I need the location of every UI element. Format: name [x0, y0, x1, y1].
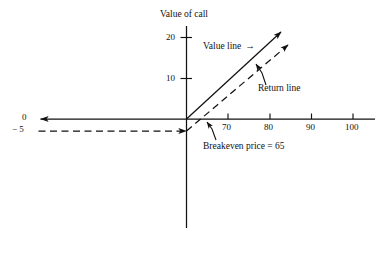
- breakeven-leader: [207, 122, 216, 140]
- x-tick-label-80: 80: [264, 123, 273, 132]
- x-tick-label-70: 70: [222, 123, 231, 132]
- value-line-label: Value line→: [203, 42, 255, 52]
- zero-level-marker-label: 0: [22, 113, 27, 122]
- breakeven-leader-path: [207, 122, 216, 140]
- option-payoff-chart: Value of call 20 10 70 80 90 100 0 − 5 V…: [0, 0, 388, 279]
- chart-canvas: [0, 0, 388, 279]
- x-tick-label-100: 100: [345, 123, 359, 132]
- y-tick-label-10: 10: [166, 74, 175, 83]
- minus-five-level-marker-label: − 5: [12, 125, 24, 134]
- y-tick-label-20: 20: [166, 33, 175, 42]
- chart-title: Value of call: [160, 10, 208, 20]
- return-line-label: Return line: [258, 84, 300, 94]
- value-line-arrow-icon: →: [245, 41, 255, 51]
- series-return-line: [39, 45, 289, 131]
- x-tick-label-90: 90: [306, 123, 315, 132]
- x-axis-ticks: [228, 114, 353, 120]
- breakeven-annotation-label: Breakeven price = 65: [203, 142, 285, 152]
- value-line-label-text: Value line: [203, 41, 241, 51]
